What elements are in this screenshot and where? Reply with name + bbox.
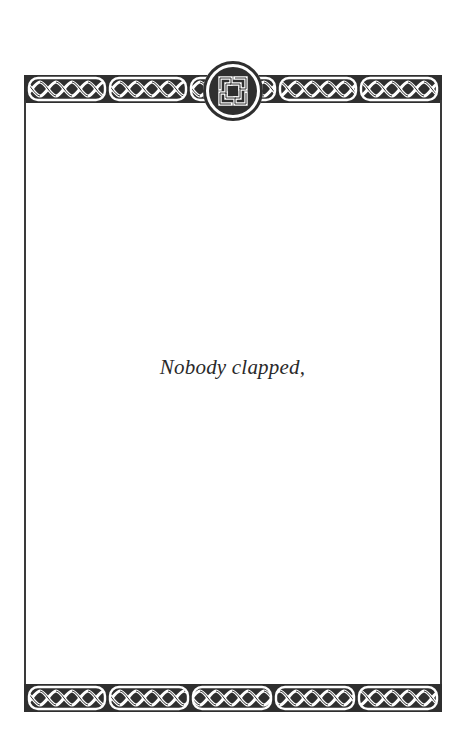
book-page: Nobody clapped,: [0, 0, 465, 737]
celtic-shield-knot-icon: [202, 60, 264, 122]
right-frame-line: [440, 100, 442, 686]
celtic-knot-band-icon: [24, 684, 442, 712]
left-frame-line: [24, 100, 26, 686]
verse-text: Nobody clapped,: [0, 355, 465, 380]
bottom-celtic-border: [24, 684, 442, 712]
